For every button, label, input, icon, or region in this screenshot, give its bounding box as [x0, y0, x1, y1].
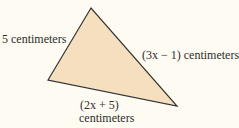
bottom-side-unit: centimeters: [79, 112, 134, 125]
left-side-label: 5 centimeters: [2, 33, 66, 46]
bottom-side-label: (2x + 5) centimeters: [79, 99, 134, 125]
right-side-label: (3x − 1) centimeters: [142, 49, 239, 62]
